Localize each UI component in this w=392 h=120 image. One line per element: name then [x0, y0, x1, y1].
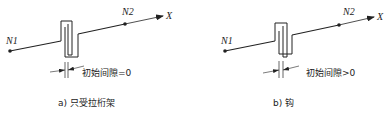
caption-a: a) 只受拉桁架	[58, 97, 115, 108]
node-n1-label: N1	[5, 35, 18, 46]
caption-b: b) 钩	[273, 97, 294, 108]
member-right	[78, 24, 125, 34]
gap-label: 初始间隙=0	[82, 67, 132, 78]
node-n2-label: N2	[342, 6, 355, 17]
hook-outer	[275, 23, 287, 57]
gap-arrow-left	[263, 70, 279, 73]
diagram-canvas: N1 N2 X 初始间隙=0 a) 只受拉桁架 N1 N2	[0, 0, 392, 120]
x-axis-arrow	[125, 16, 163, 24]
gap-label: 初始间隙>0	[306, 67, 356, 78]
member-right	[292, 25, 339, 35]
x-axis-arrow	[339, 17, 374, 25]
node-n1-label: N1	[220, 35, 233, 46]
hook-outer	[61, 21, 72, 55]
gap-arrow-left	[50, 70, 65, 72]
panel-a-tension-only-truss: N1 N2 X 初始间隙=0 a) 只受拉桁架	[5, 6, 173, 108]
hook-inner	[279, 31, 292, 54]
x-axis-label: X	[376, 11, 384, 22]
x-axis-label: X	[165, 10, 173, 21]
gap-arrow-right	[283, 66, 299, 70]
panel-b-hook: N1 N2 X 初始间隙>0 b) 钩	[220, 6, 384, 108]
node-n2-label: N2	[121, 6, 134, 17]
